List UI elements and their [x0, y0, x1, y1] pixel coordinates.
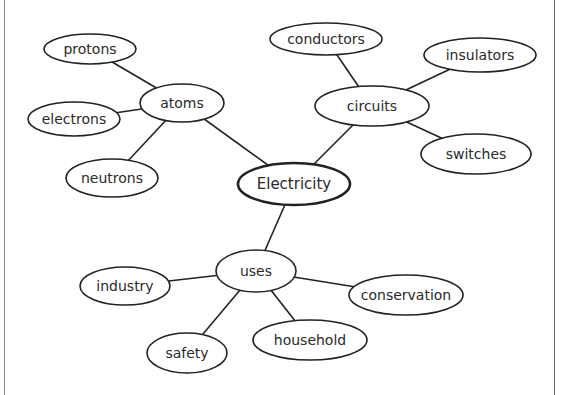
node-uses: uses [216, 250, 296, 292]
node-electrons: electrons [28, 102, 120, 136]
node-insulators: insulators [424, 38, 536, 72]
node-electricity: Electricity [238, 163, 350, 205]
node-label: neutrons [81, 170, 143, 186]
node-switches: switches [421, 134, 531, 174]
node-label: protons [63, 41, 116, 57]
node-neutrons: neutrons [66, 159, 158, 197]
node-label: conductors [287, 31, 365, 47]
node-label: electrons [42, 111, 106, 127]
node-label: uses [240, 263, 272, 279]
node-safety: safety [147, 333, 227, 373]
node-circuits: circuits [315, 86, 429, 126]
node-label: conservation [361, 287, 451, 303]
concept-nodes: atomsprotonselectronsneutronscircuitscon… [28, 23, 536, 373]
node-label: circuits [347, 98, 397, 114]
node-label: atoms [160, 95, 204, 111]
node-label: switches [446, 146, 507, 162]
node-protons: protons [44, 34, 136, 64]
node-label: insulators [446, 47, 515, 63]
node-conductors: conductors [270, 23, 382, 55]
node-label: safety [165, 345, 208, 361]
concept-map: atomsprotonselectronsneutronscircuitscon… [0, 0, 565, 395]
node-label: household [274, 332, 346, 348]
node-conservation: conservation [349, 275, 463, 315]
node-label: Electricity [257, 175, 332, 193]
node-industry: industry [80, 267, 170, 305]
node-atoms: atoms [140, 84, 224, 122]
node-label: industry [96, 278, 153, 294]
node-household: household [253, 320, 367, 360]
